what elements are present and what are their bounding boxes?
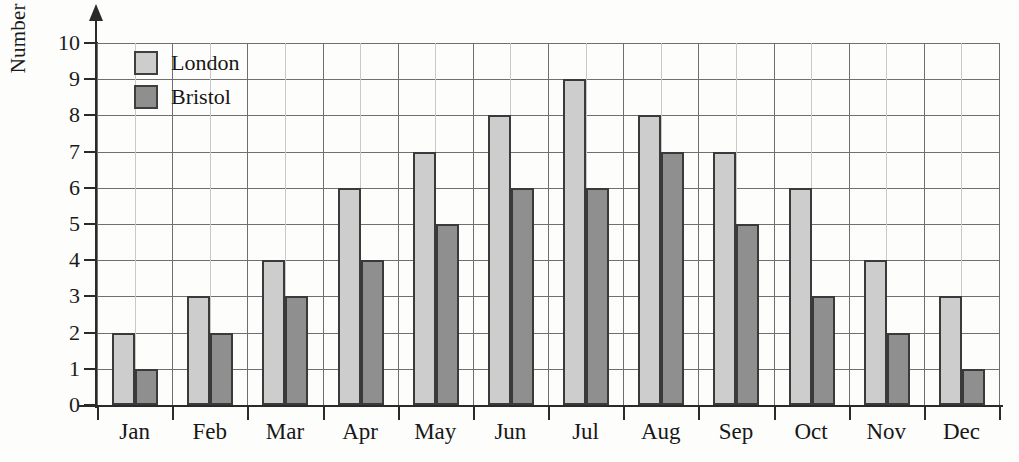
x-axis-line	[78, 405, 1003, 407]
x-axis-category-label: Mar	[247, 419, 322, 445]
x-axis-category-label: Jun	[473, 419, 548, 445]
y-axis-arrow-icon	[89, 4, 103, 21]
bar	[361, 260, 384, 405]
legend-item: Bristol	[134, 80, 304, 114]
bar-chart: Number of hours 012345678910 JanFebMarAp…	[0, 0, 1019, 462]
bar	[789, 188, 812, 405]
bar	[187, 296, 210, 405]
bar	[511, 188, 534, 405]
bar	[638, 115, 661, 405]
legend-item: London	[134, 46, 304, 80]
bar	[864, 260, 887, 405]
bar	[962, 369, 985, 405]
y-axis-tick-label: 4	[44, 249, 80, 271]
y-axis-tick-label: 5	[44, 213, 80, 235]
bar	[812, 296, 835, 405]
x-axis-category-label: Oct	[774, 419, 849, 445]
gridline-vertical	[924, 43, 925, 405]
y-axis-tick-label: 8	[44, 104, 80, 126]
y-axis-title: Number of hours	[6, 0, 36, 120]
x-axis-category-label: Apr	[323, 419, 398, 445]
gridline-vertical	[999, 43, 1000, 405]
y-axis-tick-label: 10	[44, 32, 80, 54]
y-axis-tick-label: 7	[44, 141, 80, 163]
bar	[939, 296, 962, 405]
gridline-vertical	[623, 43, 624, 405]
gridline-vertical	[698, 43, 699, 405]
bar	[210, 333, 233, 405]
gridline-vertical	[548, 43, 549, 405]
gridline-vertical	[849, 43, 850, 405]
legend-swatch	[134, 85, 158, 109]
y-axis-tick-labels: 012345678910	[44, 0, 80, 462]
y-axis-tick-label: 6	[44, 177, 80, 199]
gridline-vertical	[97, 43, 98, 405]
y-axis-tick-label: 0	[44, 394, 80, 416]
bar	[436, 224, 459, 405]
y-axis-tick-label: 1	[44, 358, 80, 380]
legend: LondonBristol	[134, 46, 304, 114]
bar	[887, 333, 910, 405]
bar	[661, 152, 684, 405]
bar	[488, 115, 511, 405]
legend-swatch	[134, 51, 158, 75]
x-axis-category-label: Aug	[623, 419, 698, 445]
y-axis-tick-label: 9	[44, 68, 80, 90]
bar	[736, 224, 759, 405]
bar	[285, 296, 308, 405]
bar	[563, 79, 586, 405]
gridline-vertical	[774, 43, 775, 405]
gridline-vertical	[323, 43, 324, 405]
x-axis-category-label: Sep	[698, 419, 773, 445]
x-axis-category-label: Jan	[97, 419, 172, 445]
gridline-vertical	[473, 43, 474, 405]
bar	[112, 333, 135, 405]
bar	[713, 152, 736, 405]
bar	[262, 260, 285, 405]
x-axis-category-label: Dec	[924, 419, 999, 445]
gridline-vertical	[398, 43, 399, 405]
x-axis-tick-mark	[999, 407, 1001, 420]
bar	[413, 152, 436, 405]
y-axis-tick-label: 2	[44, 322, 80, 344]
x-axis-category-label: Nov	[849, 419, 924, 445]
x-axis-category-label: Jul	[548, 419, 623, 445]
x-axis-category-label: May	[398, 419, 473, 445]
y-axis-tick-label: 3	[44, 285, 80, 307]
bar	[135, 369, 158, 405]
legend-label: Bristol	[171, 86, 231, 108]
legend-label: London	[171, 52, 239, 74]
bar	[338, 188, 361, 405]
x-axis-category-label: Feb	[172, 419, 247, 445]
bar	[586, 188, 609, 405]
